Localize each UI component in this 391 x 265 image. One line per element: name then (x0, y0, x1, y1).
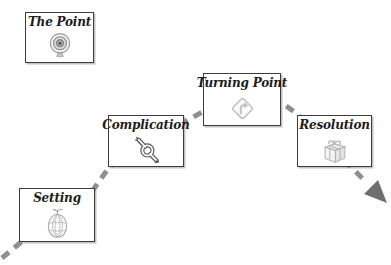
hot-air-balloon-icon (44, 206, 71, 241)
flow-arrowhead-icon (364, 180, 387, 203)
node-setting: Setting (19, 188, 95, 242)
node-complication: Complication (108, 115, 184, 167)
diagram-canvas: The Point Setting Complication (0, 0, 391, 265)
node-turning-point-label: Turning Point (197, 76, 287, 91)
gift-icon (318, 133, 351, 166)
node-the-point-label: The Point (28, 15, 91, 30)
node-resolution-label: Resolution (299, 118, 369, 133)
node-resolution: Resolution (297, 115, 372, 167)
turn-sign-icon (229, 91, 256, 125)
node-turning-point: Turning Point (203, 73, 281, 126)
node-setting-label: Setting (33, 191, 81, 206)
knot-icon (131, 133, 161, 166)
node-the-point: The Point (25, 12, 94, 63)
target-icon (48, 30, 72, 62)
node-complication-label: Complication (102, 118, 189, 133)
